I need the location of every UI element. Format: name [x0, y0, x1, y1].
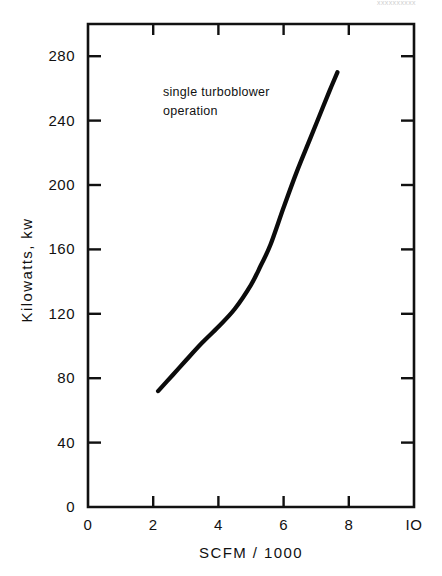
y-tick-label: 120	[48, 305, 75, 322]
y-tick-label: 160	[48, 240, 75, 257]
annotation-line-1: single turboblower	[163, 85, 270, 99]
y-tick-label: 0	[66, 498, 75, 515]
y-tick-label: 280	[48, 47, 75, 64]
annotation-line-2: operation	[163, 104, 218, 118]
series-line-single-turboblower	[158, 72, 337, 391]
data-series-group	[158, 72, 337, 391]
y-axis-ticks	[88, 56, 414, 442]
x-tick-label: 0	[84, 516, 93, 533]
x-tick-label: 6	[279, 516, 288, 533]
x-tick-label: IO	[406, 516, 423, 533]
y-axis-title: Kilowatts, kw	[18, 218, 35, 323]
y-tick-label: 240	[48, 112, 75, 129]
chart-canvas: 02468IO 04080120160200240280 single turb…	[0, 0, 442, 576]
y-tick-label: 200	[48, 176, 75, 193]
chart-figure: xxxxxxxxxx 02468IO 04080120160200240280 …	[0, 0, 442, 576]
x-tick-label: 2	[149, 516, 158, 533]
x-tick-label: 4	[214, 516, 223, 533]
y-axis-tick-labels: 04080120160200240280	[48, 47, 75, 515]
y-tick-label: 80	[57, 369, 75, 386]
x-axis-tick-labels: 02468IO	[84, 516, 423, 533]
annotation-group: single turboblower operation	[163, 85, 270, 118]
y-tick-label: 40	[57, 434, 75, 451]
x-axis-title: SCFM / 1000	[199, 544, 303, 561]
x-tick-label: 8	[344, 516, 353, 533]
